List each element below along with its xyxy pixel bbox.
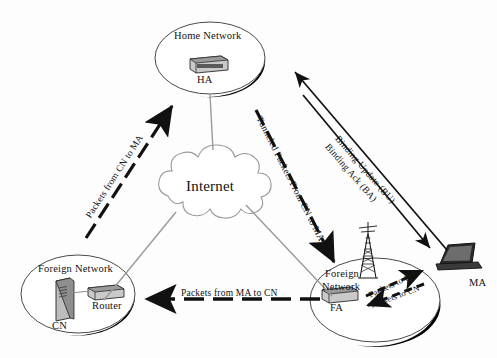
- ha-label: HA: [197, 74, 213, 85]
- network-diagram-canvas: Home Network HA Internet Foreign Network…: [0, 0, 497, 358]
- ha-device-icon: [190, 56, 228, 73]
- router-label: Router: [92, 300, 122, 311]
- foreign-network-right-label-line1: Foreign: [325, 268, 359, 279]
- link-home-to-internet: [210, 95, 213, 150]
- link-internet-to-foreign-right: [246, 205, 332, 296]
- link-internet-to-foreign-left: [104, 212, 176, 300]
- fa-label: FA: [330, 302, 343, 313]
- arrow-packets-from-cn-to-ma: [86, 106, 172, 238]
- internet-cloud-label: Internet: [186, 178, 234, 195]
- foreign-network-right-label-line2: Network: [322, 281, 360, 292]
- ma-label: MA: [469, 277, 486, 288]
- laptop-icon: [436, 243, 482, 270]
- diagram-vector-layer: [0, 0, 497, 358]
- foreign-network-left-label: Foreign Network: [38, 263, 113, 274]
- home-network-label: Home Network: [174, 30, 241, 41]
- cn-server-icon: [56, 278, 74, 321]
- flow-label-packets-from-ma-to-cn: Packets from MA to CN: [181, 288, 278, 298]
- cn-label: CN: [52, 320, 67, 331]
